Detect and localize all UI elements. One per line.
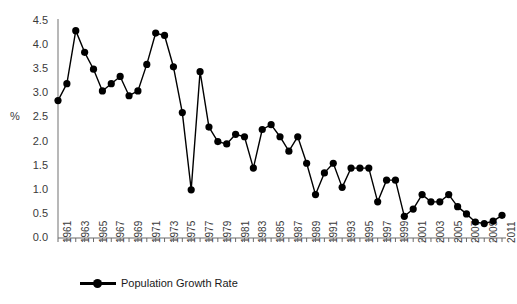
data-point: [356, 164, 363, 171]
data-point: [347, 164, 354, 171]
data-point: [241, 133, 248, 140]
data-point: [143, 61, 150, 68]
data-point: [152, 29, 159, 36]
data-point: [436, 198, 443, 205]
data-point: [108, 80, 115, 87]
data-point: [472, 218, 479, 225]
data-point: [463, 210, 470, 217]
data-point: [99, 87, 106, 94]
legend-marker-icon: [80, 277, 116, 289]
chart-legend: Population Growth Rate: [80, 277, 238, 289]
data-line: [58, 31, 502, 224]
data-point: [90, 66, 97, 73]
data-point: [125, 92, 132, 99]
data-point: [250, 164, 257, 171]
population-growth-rate-chart: % 0.00.51.01.52.02.53.03.54.04.5 1961196…: [0, 0, 517, 304]
data-point: [481, 220, 488, 227]
data-point: [490, 218, 497, 225]
data-point: [427, 198, 434, 205]
data-point: [410, 205, 417, 212]
data-point: [268, 121, 275, 128]
data-point: [214, 138, 221, 145]
data-point: [303, 160, 310, 167]
data-point: [285, 148, 292, 155]
legend-label: Population Growth Rate: [121, 277, 238, 289]
data-point: [330, 160, 337, 167]
data-point: [294, 133, 301, 140]
data-point: [498, 212, 505, 219]
data-point: [418, 191, 425, 198]
data-point: [205, 123, 212, 130]
data-point: [223, 140, 230, 147]
plot-area: [0, 0, 517, 304]
data-point: [161, 32, 168, 39]
data-point: [196, 68, 203, 75]
data-point: [365, 164, 372, 171]
data-point: [134, 87, 141, 94]
data-point: [392, 177, 399, 184]
data-point: [312, 191, 319, 198]
data-point: [276, 133, 283, 140]
data-point: [81, 49, 88, 56]
data-point: [374, 198, 381, 205]
data-point: [259, 126, 266, 133]
data-point: [179, 109, 186, 116]
data-point: [72, 27, 79, 34]
data-point: [321, 169, 328, 176]
data-point: [117, 73, 124, 80]
data-point: [188, 186, 195, 193]
data-point: [63, 80, 70, 87]
data-point: [383, 177, 390, 184]
data-point: [454, 203, 461, 210]
data-point: [54, 97, 61, 104]
data-point: [445, 191, 452, 198]
data-point: [339, 184, 346, 191]
data-point: [232, 131, 239, 138]
data-point: [401, 213, 408, 220]
data-point: [170, 63, 177, 70]
